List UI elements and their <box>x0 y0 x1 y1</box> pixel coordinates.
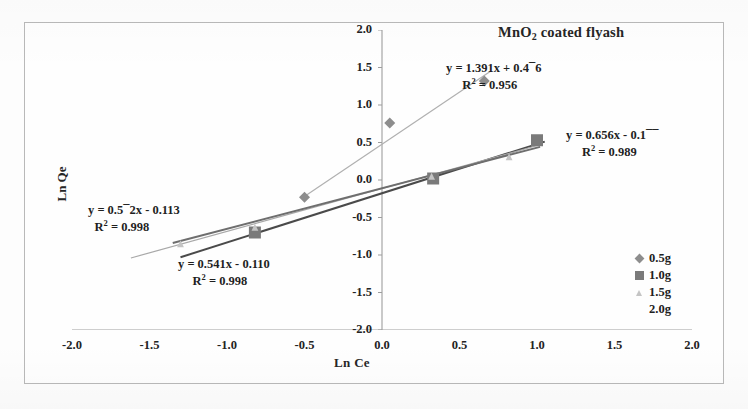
r-squared-text-1: R2 = 0.989 <box>566 143 659 160</box>
y-axis-tick-label: 1.0 <box>338 97 372 112</box>
diamond-marker-icon <box>632 252 646 266</box>
data-point-1p0g-2[interactable] <box>531 134 543 146</box>
triangle-marker-icon <box>632 286 646 300</box>
x-axis-tick-label: 0.0 <box>362 338 402 353</box>
equation-text-0: y = 1.391x + 0.4¯6 <box>446 61 542 75</box>
y-axis-tick-label: 1.5 <box>338 60 372 75</box>
x-axis-tick-label: -0.5 <box>285 338 325 353</box>
x-axis-title: Ln Ce <box>0 355 748 371</box>
equation-text-2: y = 0.5¯2x - 0.113 <box>88 203 180 217</box>
legend-item-1p5g[interactable]: 1.5g <box>632 284 706 301</box>
y-axis-title: Ln Qe <box>54 144 70 224</box>
trendline-equation-0p5g: y = 1.391x + 0.4¯6 R2 = 0.956 <box>446 60 542 93</box>
trendline-equation-1p0g: y = 0.656x - 0.1¯¯ R2 = 0.989 <box>566 127 659 160</box>
x-axis-tick-label: -2.0 <box>52 338 92 353</box>
x-axis-tick-label: 0.5 <box>440 338 480 353</box>
y-axis-tick-label: -1.0 <box>338 247 372 262</box>
r-squared-text-0: R2 = 0.956 <box>446 76 542 93</box>
y-axis-tick-label: 0.5 <box>338 135 372 150</box>
x-axis-title-text: Ln Ce <box>334 355 370 370</box>
equation-text-1: y = 0.656x - 0.1¯¯ <box>566 128 659 142</box>
legend-item-label: 2.0g <box>649 302 671 317</box>
y-axis-tick-label: 2.0 <box>338 22 372 37</box>
r-squared-text-2: R2 = 0.998 <box>88 218 180 235</box>
chart-legend: 0.5g1.0g1.5g2.0g <box>632 250 706 318</box>
plot-area <box>72 30 692 330</box>
x-axis-tick-label: 1.0 <box>517 338 557 353</box>
plot-canvas <box>72 30 692 330</box>
x-axis-tick-label: -1.0 <box>207 338 247 353</box>
r-squared-text-3: R2 = 0.998 <box>178 272 270 289</box>
x-axis-tick-label: -1.5 <box>130 338 170 353</box>
legend-item-label: 1.0g <box>649 268 671 283</box>
x-axis-tick-label: 2.0 <box>672 338 712 353</box>
y-axis-tick-label: 0.0 <box>338 172 372 187</box>
legend-item-1p0g[interactable]: 1.0g <box>632 267 706 284</box>
y-axis-tick-label: -2.0 <box>338 322 372 337</box>
none-marker-icon <box>632 303 646 317</box>
figure-root: MnO2 coated flyash Ln Qe 2.01.51.00.50.0… <box>0 0 748 409</box>
y-axis-tick-label: -0.5 <box>338 210 372 225</box>
legend-item-label: 0.5g <box>649 251 671 266</box>
trendline-equation-2p0g: y = 0.541x - 0.110 R2 = 0.998 <box>178 256 270 289</box>
legend-item-2p0g[interactable]: 2.0g <box>632 301 706 318</box>
data-point-0p5g-1[interactable] <box>384 118 395 129</box>
equation-text-3: y = 0.541x - 0.110 <box>178 257 270 271</box>
legend-item-label: 1.5g <box>649 285 671 300</box>
legend-item-0p5g[interactable]: 0.5g <box>632 250 706 267</box>
y-axis-tick-label: -1.5 <box>338 285 372 300</box>
x-axis-tick-label: 1.5 <box>595 338 635 353</box>
square-marker-icon <box>632 269 646 283</box>
trendline-equation-1p5g: y = 0.5¯2x - 0.113 R2 = 0.998 <box>88 202 180 235</box>
